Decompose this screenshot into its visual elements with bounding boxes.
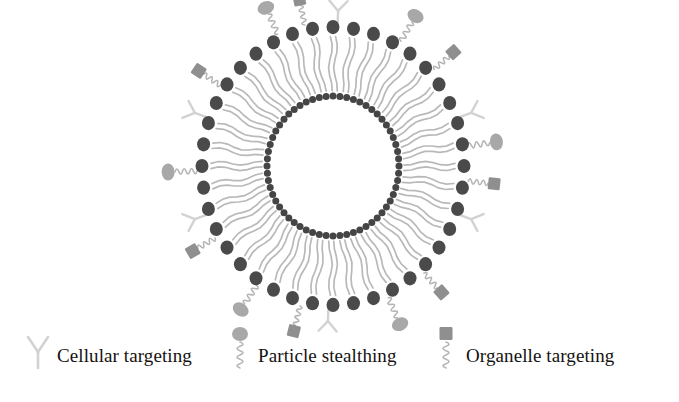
lipid-head-inner [374, 111, 381, 118]
lipid-head-outer [267, 283, 280, 297]
lipid-head-outer [197, 181, 210, 195]
lipid-head-inner [356, 99, 363, 106]
lipid-head-inner [297, 223, 304, 230]
lipid-head-inner [303, 226, 310, 233]
lipid-head-outer [286, 27, 299, 41]
lipid-head-outer [250, 47, 263, 61]
lipid-head-outer [433, 241, 446, 255]
lipid-head-inner [264, 170, 271, 177]
lipid-head-outer [456, 137, 469, 151]
lipid-head-inner [368, 219, 375, 226]
lipid-head-inner [336, 232, 343, 239]
lipid-head-outer [433, 77, 446, 91]
lipid-head-inner [303, 99, 310, 106]
lipid-head-inner [285, 111, 292, 118]
lipid-head-outer [347, 296, 360, 310]
lipid-head-outer [202, 202, 215, 216]
lipid-head-outer [267, 35, 280, 49]
lipid-head-inner [383, 121, 390, 128]
lipid-head-inner [264, 163, 271, 170]
lipid-head-inner [309, 229, 316, 236]
lipid-head-inner [264, 155, 271, 162]
lipid-head-inner [291, 106, 298, 113]
lipid-head-inner [265, 148, 272, 155]
lipid-head-inner [387, 198, 394, 205]
lipid-head-outer [458, 159, 471, 173]
lipid-head-inner [309, 96, 316, 103]
lipid-head-inner [323, 93, 330, 100]
lipid-head-outer [250, 271, 263, 285]
liposome-diagram: Cellular targeting Particle stealthing O… [0, 0, 679, 402]
lipid-head-outer [419, 257, 432, 271]
lipid-head-inner [350, 96, 357, 103]
lipid-head-outer [451, 116, 464, 130]
lipid-head-inner [394, 177, 401, 184]
lipid-head-outer [386, 35, 399, 49]
lipid-head-outer [221, 77, 234, 91]
lipid-head-inner [330, 93, 337, 100]
lipid-head-inner [395, 155, 402, 162]
lipid-head-inner [368, 106, 375, 113]
lipid-head-outer [327, 20, 340, 34]
lipid-head-inner [395, 170, 402, 177]
lipid-head-inner [387, 128, 394, 135]
lipid-head-inner [285, 215, 292, 222]
lipid-head-outer [306, 296, 319, 310]
lipid-head-outer [443, 96, 456, 110]
lipid-head-inner [291, 219, 298, 226]
lipid-head-outer [456, 181, 469, 195]
lipid-head-outer [367, 27, 380, 41]
lipid-head-inner [356, 226, 363, 233]
lipid-head-inner [316, 231, 323, 238]
lipid-head-inner [336, 93, 343, 100]
lipid-head-inner [374, 215, 381, 222]
lipid-head-outer [404, 271, 417, 285]
lipid-head-inner [276, 204, 283, 211]
lipid-head-outer [210, 222, 223, 236]
lipid-head-outer [234, 61, 247, 75]
lipid-head-inner [350, 229, 357, 236]
lipid-head-inner [265, 177, 272, 184]
lipid-head-inner [267, 141, 274, 148]
legend-label-cellular-targeting: Cellular targeting [57, 345, 192, 366]
lipid-head-inner [281, 209, 288, 216]
lipid-head-outer [386, 283, 399, 297]
lipid-head-outer [197, 137, 210, 151]
lipid-head-inner [269, 191, 276, 198]
lipid-head-inner [330, 233, 337, 240]
lipid-head-inner [383, 204, 390, 211]
lipid-head-outer [221, 241, 234, 255]
lipid-head-inner [379, 209, 386, 216]
lipid-head-inner [281, 116, 288, 123]
lipid-head-inner [343, 94, 350, 101]
lipid-head-inner [272, 128, 279, 135]
lipid-head-outer [202, 116, 215, 130]
legend-label-particle-stealthing: Particle stealthing [258, 345, 397, 366]
lipid-head-outer [210, 96, 223, 110]
organelle-square-head [440, 327, 453, 340]
lipid-head-inner [392, 184, 399, 191]
stealth-ellipse-head [232, 327, 248, 341]
lipid-head-inner [363, 102, 370, 109]
lipid-head-inner [272, 198, 279, 205]
lipid-head-inner [276, 121, 283, 128]
lipid-head-inner [379, 116, 386, 123]
lipid-head-inner [316, 94, 323, 101]
lipid-head-inner [363, 223, 370, 230]
lipid-head-inner [390, 191, 397, 198]
lipid-head-inner [394, 148, 401, 155]
lipid-head-outer [367, 291, 380, 305]
lipid-head-outer [451, 202, 464, 216]
figure-background [0, 0, 679, 402]
lipid-head-inner [396, 163, 403, 170]
lipid-head-outer [404, 47, 417, 61]
lipid-head-inner [269, 134, 276, 141]
lipid-head-outer [443, 222, 456, 236]
lipid-head-outer [286, 291, 299, 305]
lipid-head-outer [347, 22, 360, 36]
lipid-head-inner [392, 141, 399, 148]
lipid-head-outer [196, 159, 209, 173]
lipid-head-outer [306, 22, 319, 36]
lipid-head-inner [323, 232, 330, 239]
organelle-square-icon [488, 177, 501, 190]
